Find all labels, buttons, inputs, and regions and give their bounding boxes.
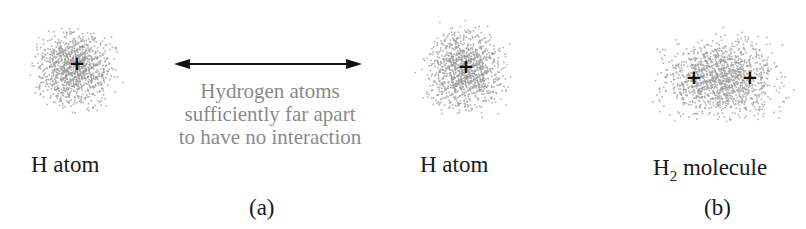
nucleus-molecule-1: + <box>684 67 704 87</box>
left-atom-label: H atom <box>31 152 99 178</box>
molecule-word: molecule <box>677 155 767 180</box>
note-line-3: to have no interaction <box>150 126 390 149</box>
molecule-symbol: H <box>653 155 670 180</box>
molecule-label: H2 molecule <box>653 155 767 185</box>
caption-a: (a) <box>249 195 275 221</box>
caption-b: (b) <box>704 195 731 221</box>
nucleus-left-atom: + <box>67 53 87 73</box>
separation-note: Hydrogen atoms sufficiently far apart to… <box>150 80 390 149</box>
note-line-1: Hydrogen atoms <box>150 80 390 103</box>
molecule-subscript: 2 <box>670 168 678 184</box>
note-line-2: sufficiently far apart <box>150 103 390 126</box>
electron-cloud-left-atom <box>0 0 806 229</box>
double-arrow-icon <box>170 56 366 72</box>
nucleus-molecule-2: + <box>740 67 760 87</box>
nucleus-right-atom: + <box>456 56 476 76</box>
right-atom-label: H atom <box>420 152 488 178</box>
hydrogen-bonding-diagram: + + + + Hydrogen atoms sufficiently far … <box>0 0 806 229</box>
